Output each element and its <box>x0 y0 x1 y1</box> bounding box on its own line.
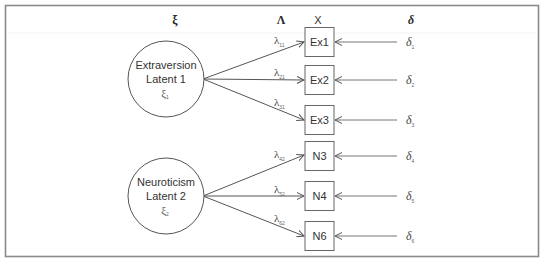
indicator-label: Ex1 <box>310 36 329 48</box>
latent-node-neuroticism: Neuroticism Latent 2 ξ2 <box>128 158 204 234</box>
indicator-label: N6 <box>312 230 326 242</box>
indicator-label: Ex3 <box>310 114 329 126</box>
latent-symbol-subscript: 1 <box>166 94 169 100</box>
indicator-ex3: Ex3 <box>305 106 334 135</box>
indicator-n4: N4 <box>305 182 334 211</box>
indicator-label: N3 <box>312 150 326 162</box>
indicator-ex2: Ex2 <box>305 66 334 95</box>
indicator-n3: N3 <box>305 142 334 171</box>
latent-label: Latent 1 <box>146 73 186 85</box>
latent-node-extraversion: Extraversion Latent 1 ξ1 <box>128 41 204 117</box>
latent-name: Neuroticism <box>137 176 195 188</box>
header-loadings-symbol: Λ <box>277 13 286 27</box>
latent-symbol-subscript: 2 <box>166 211 169 217</box>
cfa-path-diagram: ξ Λ X δ Extraversion Latent 1 ξ1 Neuroti… <box>0 0 544 263</box>
header-observed-symbol: X <box>314 14 322 26</box>
latent-name: Extraversion <box>135 59 196 71</box>
indicator-n6: N6 <box>305 222 334 251</box>
latent-label: Latent 2 <box>146 190 186 202</box>
header-latent-symbol: ξ <box>172 13 178 27</box>
header-errors-symbol: δ <box>408 13 414 27</box>
indicator-ex1: Ex1 <box>305 28 334 57</box>
diagram-frame <box>6 6 539 257</box>
indicator-label: N4 <box>312 190 326 202</box>
indicator-label: Ex2 <box>310 74 329 86</box>
